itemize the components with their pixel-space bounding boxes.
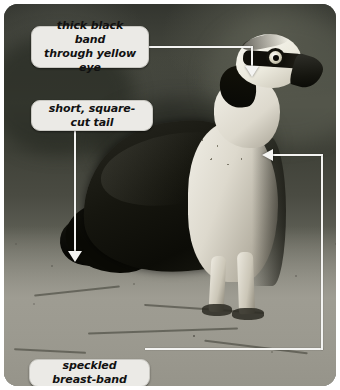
callout-label-eye-text: thick black band through yellow eye: [41, 19, 139, 75]
callout-label-tail-text: short, square-cut tail: [41, 102, 143, 130]
right-leg: [237, 252, 255, 315]
osprey-photograph: thick black band through yellow eye shor…: [4, 4, 336, 386]
leader-line-eye-horizontal: [149, 46, 253, 48]
callout-label-eye-line1: thick black band: [57, 19, 123, 46]
arrow-icon-eye: [245, 66, 259, 77]
callout-label-eye-line2: through yellow eye: [44, 47, 136, 74]
leader-line-breast-top: [273, 154, 323, 156]
callout-label-tail: short, square-cut tail: [31, 100, 153, 131]
annotated-bird-figure: thick black band through yellow eye shor…: [0, 0, 340, 390]
right-foot: [232, 308, 264, 320]
leader-line-eye-vertical: [251, 46, 253, 68]
arrow-icon-tail: [68, 251, 82, 262]
callout-label-eye: thick black band through yellow eye: [31, 26, 149, 68]
leader-line-breast-horizontal: [145, 348, 323, 350]
left-foot: [202, 304, 232, 316]
callout-label-breast: speckled breast-band: [29, 359, 150, 386]
leader-line-breast-vertical: [321, 154, 323, 350]
leader-line-tail: [74, 131, 76, 253]
eye-pupil: [273, 55, 279, 61]
arrow-icon-breast: [262, 149, 273, 161]
callout-label-breast-text: speckled breast-band: [39, 359, 140, 386]
